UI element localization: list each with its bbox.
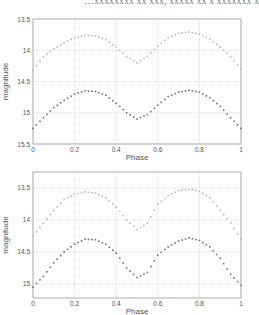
x-tick-label: 0.4 xyxy=(112,146,121,153)
data-point xyxy=(233,60,235,62)
data-point xyxy=(53,262,55,264)
data-point xyxy=(36,124,38,126)
data-point xyxy=(157,203,159,205)
data-point xyxy=(150,111,152,113)
data-point xyxy=(50,266,52,268)
data-point xyxy=(209,197,211,199)
data-point xyxy=(219,46,221,48)
data-point xyxy=(108,97,110,99)
data-point xyxy=(178,33,180,35)
data-point xyxy=(219,106,221,108)
data-point xyxy=(32,286,34,288)
data-point xyxy=(226,53,228,55)
data-point xyxy=(98,194,100,196)
data-point xyxy=(164,249,166,251)
data-point xyxy=(56,258,58,260)
data-point xyxy=(105,197,107,199)
data-point xyxy=(206,95,208,97)
data-point xyxy=(50,214,52,216)
data-point xyxy=(178,91,180,93)
y-tick-label: 13.5 xyxy=(17,184,30,191)
data-point xyxy=(126,219,128,221)
data-point xyxy=(154,49,156,51)
data-point xyxy=(164,40,166,42)
data-point xyxy=(181,189,183,191)
data-point xyxy=(136,62,138,64)
x-tick-label: 0.8 xyxy=(195,300,204,307)
data-point xyxy=(140,227,142,229)
data-point xyxy=(126,112,128,114)
data-point xyxy=(98,36,100,38)
data-point xyxy=(171,35,173,37)
data-point xyxy=(50,51,52,53)
data-point xyxy=(240,284,242,286)
data-point xyxy=(237,64,239,66)
series-lower xyxy=(32,89,242,129)
data-point xyxy=(119,211,121,213)
data-point xyxy=(188,31,190,33)
data-point xyxy=(70,246,72,248)
data-point xyxy=(216,44,218,46)
data-point xyxy=(115,103,117,105)
data-point xyxy=(171,94,173,96)
data-point xyxy=(81,91,83,93)
data-point xyxy=(160,200,162,202)
data-point xyxy=(202,93,204,95)
data-point xyxy=(181,32,183,34)
data-point xyxy=(140,117,142,119)
data-point xyxy=(95,35,97,37)
data-point xyxy=(185,189,187,191)
data-point xyxy=(108,41,110,43)
data-point xyxy=(171,244,173,246)
data-point xyxy=(50,110,52,112)
chart-panel-2: 00.20.40.60.8113.51414.515Phasemagnitude xyxy=(1,172,243,315)
data-point xyxy=(237,281,239,283)
data-point xyxy=(32,128,34,130)
data-point xyxy=(119,106,121,108)
data-point xyxy=(147,56,149,58)
data-point xyxy=(185,32,187,34)
data-point xyxy=(36,65,38,67)
data-point xyxy=(115,206,117,208)
data-point xyxy=(122,215,124,217)
data-point xyxy=(39,60,41,62)
data-point xyxy=(122,262,124,264)
y-tick-label: 14.5 xyxy=(17,78,30,85)
data-point xyxy=(164,198,166,200)
x-tick-label: 0.2 xyxy=(70,300,79,307)
data-point xyxy=(112,100,114,102)
data-point xyxy=(202,35,204,37)
data-point xyxy=(56,206,58,208)
data-point xyxy=(223,214,225,216)
data-point xyxy=(39,227,41,229)
data-point xyxy=(147,272,149,274)
data-point xyxy=(136,118,138,120)
data-point xyxy=(223,109,225,111)
data-point xyxy=(74,194,76,196)
data-point xyxy=(36,283,38,285)
data-point xyxy=(192,90,194,92)
data-point xyxy=(102,38,104,40)
data-point xyxy=(95,192,97,194)
data-point xyxy=(233,228,235,230)
data-point xyxy=(126,56,128,58)
data-point xyxy=(95,91,97,93)
data-point xyxy=(237,233,239,235)
data-point xyxy=(129,114,131,116)
data-point xyxy=(88,191,90,193)
data-point xyxy=(143,224,145,226)
data-point xyxy=(157,45,159,47)
data-point xyxy=(133,60,135,62)
data-point xyxy=(150,216,152,218)
data-point xyxy=(108,200,110,202)
x-tick-label: 0.2 xyxy=(70,146,79,153)
data-point xyxy=(195,239,197,241)
data-point xyxy=(216,205,218,207)
data-point xyxy=(32,69,34,71)
data-point xyxy=(174,93,176,95)
data-point xyxy=(105,94,107,96)
data-point xyxy=(112,44,114,46)
data-point xyxy=(192,32,194,34)
x-tick-label: 0 xyxy=(31,146,35,153)
data-point xyxy=(60,102,62,104)
